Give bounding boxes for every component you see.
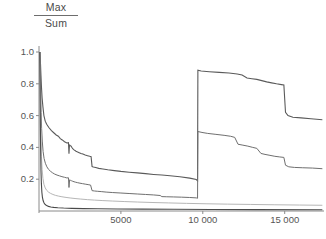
series-curve-4-dark-baseline bbox=[40, 52, 323, 210]
series-curve-1-upper bbox=[40, 52, 322, 181]
series-curve-2-middle bbox=[40, 52, 322, 198]
chart-container: Max Sum 1.00.80.60.40.2 500010 00015 000 bbox=[0, 0, 326, 239]
series-lines bbox=[40, 52, 323, 210]
axis-lines bbox=[36, 46, 324, 214]
series-curve-3-light bbox=[40, 52, 323, 205]
plot-area bbox=[0, 0, 326, 239]
